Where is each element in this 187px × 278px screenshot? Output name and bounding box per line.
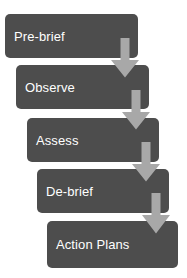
flow-stage-label: Action Plans — [47, 237, 129, 252]
flow-stage-label: Observe — [16, 80, 75, 95]
flow-stage-label: Pre-brief — [5, 29, 65, 44]
flow-stage-de-brief[interactable]: De-brief — [37, 169, 169, 213]
flow-stage-pre-brief[interactable]: Pre-brief — [5, 14, 138, 58]
flow-stage-action-plans[interactable]: Action Plans — [47, 221, 178, 268]
process-flow-diagram: Pre-brief Observe Assess De-brief Ac — [0, 0, 187, 278]
flow-stage-label: Assess — [27, 133, 79, 148]
flow-stage-observe[interactable]: Observe — [16, 65, 149, 109]
flow-stage-label: De-brief — [37, 184, 93, 199]
flow-stage-assess[interactable]: Assess — [27, 118, 159, 162]
